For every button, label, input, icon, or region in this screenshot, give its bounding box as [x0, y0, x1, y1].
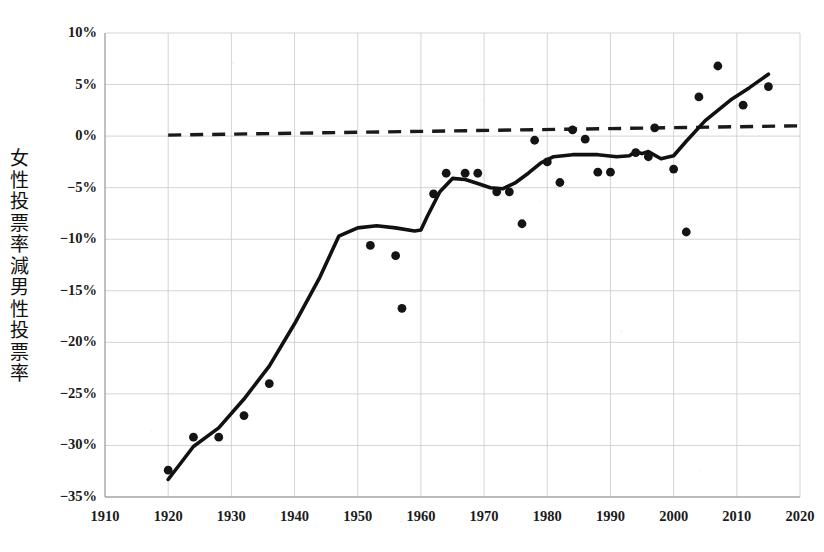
chart-container: 女性投票率減男性投票率 10%5%0%−5%−10%−15%−20%−25%−3… [0, 0, 824, 552]
x-tick-label: 2020 [768, 508, 824, 525]
grid-lines [105, 33, 800, 497]
x-tick-label: 1940 [263, 508, 327, 525]
y-tick-label: −30% [37, 436, 97, 453]
axis-frame [105, 33, 800, 497]
x-tick-label: 1960 [389, 508, 453, 525]
y-tick-label: −5% [37, 179, 97, 196]
data-points [164, 62, 773, 475]
x-tick-label: 1920 [136, 508, 200, 525]
x-tick-label: 2010 [705, 508, 769, 525]
x-tick-label: 1990 [578, 508, 642, 525]
chart-plot-area [0, 0, 824, 552]
y-tick-label: −25% [37, 385, 97, 402]
x-tick-label: 1980 [515, 508, 579, 525]
y-tick-label: −20% [37, 333, 97, 350]
y-tick-label: 0% [37, 127, 97, 144]
x-tick-label: 1950 [326, 508, 390, 525]
y-tick-label: −10% [37, 230, 97, 247]
y-tick-label: 5% [37, 76, 97, 93]
x-tick-label: 1970 [452, 508, 516, 525]
y-tick-label: −35% [37, 488, 97, 505]
x-tick-label: 1910 [73, 508, 137, 525]
y-tick-label: 10% [37, 24, 97, 41]
x-tick-label: 2000 [642, 508, 706, 525]
y-tick-label: −15% [37, 282, 97, 299]
x-tick-label: 1930 [199, 508, 263, 525]
